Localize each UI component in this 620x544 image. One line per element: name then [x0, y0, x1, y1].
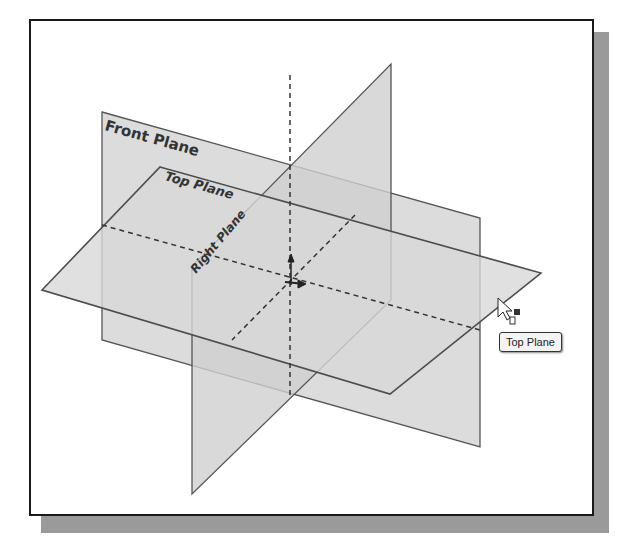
mouse-cursor-icon [498, 298, 520, 324]
plane-tooltip: Top Plane [499, 332, 562, 352]
plane-scene: Front Plane Top Plane Right Plane [0, 0, 620, 544]
